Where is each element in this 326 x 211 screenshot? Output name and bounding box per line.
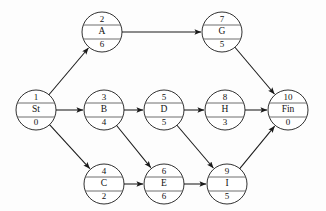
node-duration: 5 [225,191,230,201]
node-e[interactable]: 6E6 [144,164,184,204]
node-duration: 3 [223,117,228,127]
node-number: 5 [162,92,167,102]
network-canvas: 1St02A63B44C25D56E67G58H39I510Fin0 [0,0,326,211]
node-a[interactable]: 2A6 [82,12,122,52]
node-number: 4 [102,166,107,176]
node-duration: 5 [220,39,225,49]
node-duration: 6 [100,39,105,49]
node-duration: 0 [34,117,39,127]
node-i[interactable]: 9I5 [207,164,247,204]
edge-d-to-i [177,125,213,168]
nodes-layer: 1St02A63B44C25D56E67G58H39I510Fin0 [16,12,308,204]
node-duration: 5 [162,117,167,127]
edge-b-to-e [117,126,151,168]
node-number: 10 [284,92,294,102]
node-number: 1 [34,92,39,102]
node-number: 2 [100,14,105,24]
node-label: C [101,178,107,188]
node-label: A [99,26,106,36]
node-b[interactable]: 3B4 [84,90,124,130]
project-network-diagram: 1St02A63B44C25D56E67G58H39I510Fin0 [0,0,326,211]
node-number: 7 [220,14,225,24]
node-number: 6 [162,166,167,176]
node-label: I [225,178,228,188]
node-label: E [161,178,167,188]
node-duration: 6 [162,191,167,201]
edge-st-to-c [50,125,90,169]
node-number: 8 [223,92,228,102]
edge-st-to-a [49,48,89,95]
node-label: B [101,104,107,114]
node-label: St [32,104,40,114]
node-g[interactable]: 7G5 [202,12,242,52]
node-duration: 4 [102,117,107,127]
node-label: G [219,26,226,36]
node-st[interactable]: 1St0 [16,90,56,130]
edge-g-to-fin [235,47,275,94]
edge-i-to-fin [240,126,275,168]
node-duration: 2 [102,191,107,201]
node-h[interactable]: 8H3 [205,90,245,130]
node-label: Fin [282,104,295,114]
node-fin[interactable]: 10Fin0 [268,90,308,130]
node-label: D [161,104,168,114]
node-duration: 0 [286,117,291,127]
node-number: 9 [225,166,230,176]
node-number: 3 [102,92,107,102]
node-c[interactable]: 4C2 [84,164,124,204]
node-d[interactable]: 5D5 [144,90,184,130]
node-label: H [222,104,229,114]
